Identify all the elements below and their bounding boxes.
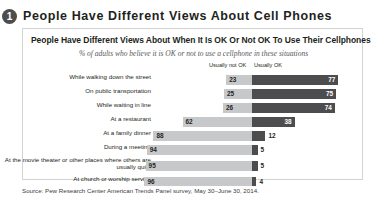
chart-row: At the movie theater or other places whe… — [23, 157, 364, 174]
bar-usually-not-ok — [147, 145, 252, 155]
bar-value-usually-ok: 5 — [261, 145, 265, 155]
legend-label-usually-ok: Usually OK — [254, 62, 282, 68]
bar-value-usually-not-ok: 23 — [229, 75, 236, 85]
bar-value-usually-ok: 77 — [252, 75, 335, 85]
chart-row: At a restaurant6238 — [23, 115, 364, 129]
chart-row: While walking down the street2377 — [23, 73, 364, 87]
chart-subtitle: % of adults who believe it is OK or not … — [23, 49, 364, 58]
bar-usually-not-ok — [153, 131, 252, 141]
chart-legend: Usually not OK Usually OK — [23, 62, 364, 72]
chart-title: People Have Different Views About When I… — [31, 35, 371, 45]
chart-row: At church or worship service964 — [23, 175, 364, 189]
figure-number-badge: 1 — [2, 9, 17, 24]
bar-usually-ok — [252, 161, 258, 171]
bar-value-usually-not-ok: 26 — [226, 103, 233, 113]
bar-value-usually-not-ok: 62 — [186, 117, 193, 127]
chart-row-bars: 2674 — [23, 101, 364, 115]
bar-value-usually-not-ok: 94 — [150, 145, 157, 155]
bar-value-usually-not-ok: 88 — [156, 131, 163, 141]
chart-row-bars: 955 — [23, 157, 364, 174]
bar-usually-ok — [252, 131, 265, 141]
chart-row: At a family dinner8812 — [23, 129, 364, 143]
bar-usually-not-ok — [146, 161, 252, 171]
source-note: Source: Pew Research Center American Tre… — [22, 187, 259, 194]
chart-row: While waiting in line2674 — [23, 101, 364, 115]
chart-row: On public transportation2575 — [23, 87, 364, 101]
bar-value-usually-not-ok: 95 — [149, 161, 156, 171]
page-header: 1 People Have Different Views About Cell… — [0, 6, 366, 26]
chart-row-bars: 8812 — [23, 129, 364, 143]
bar-value-usually-ok: 4 — [259, 177, 263, 187]
bar-value-usually-ok: 38 — [252, 117, 292, 127]
page-title: People Have Different Views About Cell P… — [23, 9, 332, 23]
chart-panel: People Have Different Views About When I… — [22, 28, 363, 180]
bar-value-usually-not-ok: 25 — [227, 89, 234, 99]
legend-label-usually-not-ok: Usually not OK — [209, 62, 246, 68]
chart-row-bars: 2377 — [23, 73, 364, 87]
chart-rows: While walking down the street2377On publ… — [23, 73, 364, 189]
chart-row-bars: 6238 — [23, 115, 364, 129]
bar-usually-not-ok — [144, 177, 252, 187]
chart-row: During a meeting945 — [23, 143, 364, 157]
chart-row-bars: 945 — [23, 143, 364, 157]
bar-usually-ok — [252, 177, 256, 187]
bar-value-usually-ok: 74 — [252, 103, 332, 113]
bar-value-usually-ok: 75 — [252, 89, 333, 99]
bar-value-usually-ok: 5 — [261, 161, 265, 171]
bar-value-usually-ok: 12 — [268, 131, 275, 141]
chart-row-bars: 964 — [23, 175, 364, 189]
bar-value-usually-not-ok: 96 — [147, 177, 154, 187]
bar-usually-ok — [252, 145, 258, 155]
chart-row-bars: 2575 — [23, 87, 364, 101]
